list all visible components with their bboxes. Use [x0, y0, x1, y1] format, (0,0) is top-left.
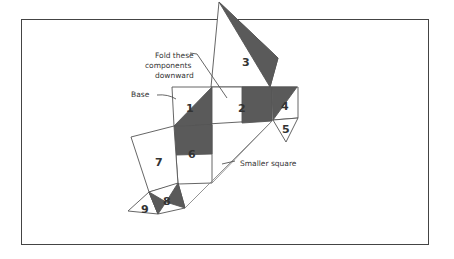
smaller-square-leader: [222, 161, 235, 164]
component-6-number: 6: [188, 148, 196, 161]
component-1-number: 1: [186, 102, 194, 115]
smaller-square-label: Smaller square: [240, 159, 297, 168]
smaller-square-line-2: [212, 120, 273, 183]
fold-label-line-1: Fold these: [155, 51, 194, 60]
fold-label-line-2: components: [145, 61, 191, 70]
component-4-number: 4: [281, 100, 289, 113]
component-9-number: 9: [141, 203, 149, 216]
component-7-number: 7: [155, 156, 163, 169]
component-2-dark: [242, 87, 272, 123]
folding-net-diagram: Fold these components downward Base Smal…: [0, 0, 454, 259]
component-2-number: 2: [238, 102, 246, 115]
component-8-number: 8: [163, 195, 171, 208]
base-label: Base: [131, 90, 150, 99]
component-3-number: 3: [242, 56, 250, 69]
component-5-number: 5: [282, 123, 290, 136]
fold-label-line-3: downward: [155, 71, 194, 80]
